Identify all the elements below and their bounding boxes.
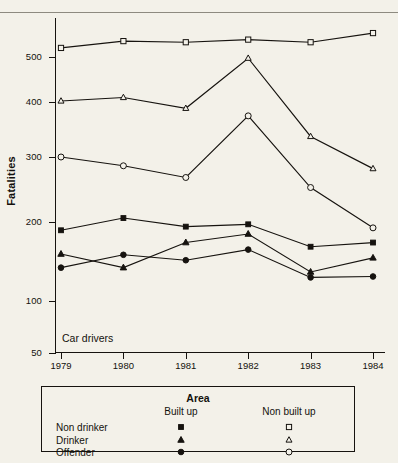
data-point-open-square: [370, 30, 375, 35]
series-line: [61, 234, 373, 272]
data-point-filled-circle: [121, 252, 127, 258]
data-point-filled-square: [246, 222, 251, 227]
legend-marker-filled-circle: [174, 446, 188, 458]
data-series-layer: [0, 0, 398, 372]
legend-title: Area: [42, 392, 354, 404]
data-point-filled-square: [121, 216, 126, 221]
data-point-filled-triangle: [245, 231, 251, 237]
data-point-filled-triangle: [370, 254, 376, 260]
data-point-open-square: [286, 424, 291, 429]
data-point-filled-circle: [245, 247, 251, 253]
data-point-filled-square: [179, 425, 184, 430]
series-line: [61, 218, 373, 247]
legend-column-header: Built up: [164, 406, 197, 417]
chart-plot-area: Fatalities 50100200300400500 19791980198…: [0, 0, 398, 372]
data-point-filled-square: [371, 240, 376, 245]
legend-column-header: Non built up: [262, 406, 315, 417]
series-line: [61, 116, 373, 228]
data-point-open-circle: [245, 113, 251, 119]
data-point-open-circle: [58, 154, 64, 160]
legend-marker-filled-triangle: [174, 434, 188, 446]
legend-marker-filled-square: [174, 421, 188, 433]
legend-marker-open-triangle: [282, 434, 296, 446]
data-point-open-square: [183, 40, 188, 45]
series-line: [61, 58, 373, 168]
data-point-open-circle: [370, 225, 376, 231]
data-point-open-triangle: [120, 94, 126, 99]
data-point-filled-triangle: [178, 436, 184, 442]
legend-row-label: Non drinker: [56, 422, 108, 433]
data-point-open-square: [58, 45, 63, 50]
data-point-open-circle: [308, 185, 314, 191]
data-point-filled-circle: [308, 275, 314, 281]
data-point-open-square: [308, 40, 313, 45]
legend-marker-open-circle: [282, 446, 296, 458]
data-point-filled-square: [183, 224, 188, 229]
data-point-filled-circle: [370, 274, 376, 280]
data-point-filled-square: [308, 244, 313, 249]
data-point-open-square: [121, 39, 126, 44]
chart-legend: Area Built upNon built upNon drinkerDrin…: [41, 386, 355, 452]
data-point-open-circle: [183, 174, 189, 180]
data-point-open-circle: [286, 449, 292, 455]
legend-row-label: Drinker: [56, 435, 88, 446]
data-point-filled-square: [59, 228, 64, 233]
series-line: [61, 250, 373, 278]
legend-marker-open-square: [282, 421, 296, 433]
plot-annotation: Car drivers: [62, 332, 113, 344]
legend-row-label: Offender: [56, 447, 95, 458]
data-point-open-triangle: [245, 55, 251, 60]
data-point-filled-circle: [178, 449, 184, 455]
data-point-filled-circle: [58, 265, 64, 271]
data-point-filled-circle: [183, 257, 189, 263]
data-point-filled-triangle: [58, 251, 64, 257]
data-point-open-square: [246, 37, 251, 42]
data-point-open-circle: [120, 163, 126, 169]
series-line: [61, 33, 373, 48]
data-point-open-triangle: [286, 436, 292, 441]
